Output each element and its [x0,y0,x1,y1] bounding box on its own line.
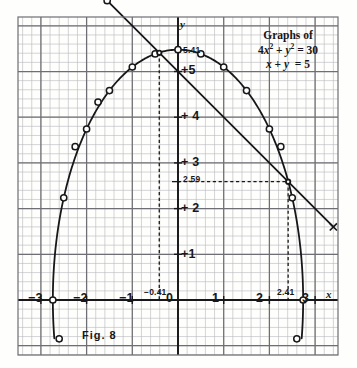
legend-equation-line: x + y = 5 [236,57,340,71]
ellipse-point-1 [61,195,67,201]
annotation-2-41: 2.41 [277,287,294,297]
ellipse-point-13 [278,144,284,150]
ellipse-point-0 [50,297,56,303]
ellipse-point-4 [95,99,101,105]
x-tick-label-2: 2 [256,291,263,305]
ellipse-point-2 [72,144,78,150]
x-tick-label-0: 0 [166,291,173,305]
figure-caption: Fig. 8 [82,329,117,341]
ellipse-point-3 [84,126,90,132]
annotation--0-41: −0.41 [144,287,167,297]
ellipse-point-14 [289,195,295,201]
x-tick-label--2: −2 [73,291,88,305]
x-tick-label--3: −3 [28,291,43,305]
y-tick-label-4: + 4 [181,109,199,123]
x-tick-label--1: −1 [119,291,134,305]
annotation-5-41: 5.41 [183,45,200,55]
y-tick-label-3: + 3 [181,155,199,169]
legend-block: Graphs of 4x2 + y2 = 30 x + y = 5 [236,28,340,71]
y-tick-label-1: +1 [181,247,196,261]
figure-graph-paper: −3 −2 −1 0 1 2 3 +5 + 4 + 3 + 2 +1 y x 5… [0,0,357,368]
intersection-marker-high-core [158,52,161,55]
ellipse-point-5 [106,87,112,93]
ellipse-tail-point-1 [294,336,300,342]
legend-equation-ellipse: 4x2 + y2 = 30 [236,42,340,57]
x-axis-name: x [326,288,332,300]
ellipse-tail-point-0 [56,336,62,342]
x-tick-label-1: 1 [212,291,219,305]
line-point-0 [104,0,110,4]
ellipse-point-12 [266,126,272,132]
y-axis-name: y [180,18,185,30]
annotation-2-59: 2.59 [183,174,200,184]
legend-title: Graphs of [236,28,340,42]
ellipse-point-8 [175,47,181,53]
y-tick-label-5: +5 [181,63,196,77]
x-tick-label-3: 3 [302,291,309,305]
ellipse-point-6 [129,64,135,70]
ellipse-point-11 [243,87,249,93]
y-tick-label-2: + 2 [181,201,199,215]
intersection-marker-low-core [287,180,290,183]
ellipse-point-10 [221,64,227,70]
